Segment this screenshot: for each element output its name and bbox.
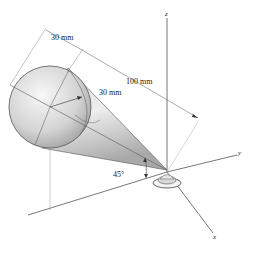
support-dome: [160, 175, 174, 180]
dim-label-cone-length: 100 mm: [126, 78, 152, 86]
dim-label-sphere-radius: 30 mm: [99, 89, 121, 97]
angle-label: 45°: [113, 171, 124, 179]
diagram-graphics: [0, 0, 253, 253]
y-axis-label: y: [238, 150, 241, 157]
reference-line: [167, 122, 198, 172]
y-axis: [167, 155, 237, 172]
dim-ext-2: [70, 49, 83, 68]
dim-100-arrowhead: [192, 114, 198, 118]
ground-line: [28, 172, 167, 215]
x-axis-label: x: [213, 234, 216, 241]
angle-arrowhead-bottom: [144, 174, 148, 178]
z-axis-label: z: [165, 11, 168, 18]
dim-label-sphere-width: 30 mm: [51, 34, 73, 42]
cone-sphere-diagram: 30 mm 30 mm 100 mm 45° z y x: [0, 0, 253, 253]
